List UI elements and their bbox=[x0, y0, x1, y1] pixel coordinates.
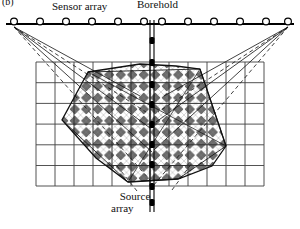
source-marker bbox=[150, 59, 155, 66]
sensor-marker bbox=[237, 18, 244, 25]
source-marker bbox=[150, 183, 155, 190]
sensor-marker bbox=[211, 18, 218, 25]
sensor-array-label: Sensor array bbox=[52, 1, 107, 13]
sensor-marker bbox=[141, 18, 148, 25]
source-marker bbox=[150, 37, 155, 44]
sensor-marker bbox=[159, 18, 166, 25]
borehole-label: Borehold bbox=[137, 0, 178, 11]
source-array-label-line2: array bbox=[105, 203, 165, 215]
source-marker bbox=[150, 121, 155, 128]
sensor-marker bbox=[37, 18, 44, 25]
source-marker bbox=[150, 161, 155, 168]
sensor-marker bbox=[185, 18, 192, 25]
panel-label: (b) bbox=[2, 0, 14, 8]
sensor-marker bbox=[11, 18, 18, 25]
source-marker bbox=[150, 101, 155, 108]
source-marker bbox=[150, 141, 155, 148]
sensor-marker bbox=[263, 18, 270, 25]
source-array-label: Source array bbox=[105, 191, 165, 214]
source-marker bbox=[150, 81, 155, 88]
sensor-marker bbox=[115, 18, 122, 25]
sensor-marker bbox=[63, 18, 70, 25]
sensor-marker bbox=[89, 18, 96, 25]
sensor-marker bbox=[285, 18, 292, 25]
source-array-label-line1: Source bbox=[120, 190, 151, 202]
